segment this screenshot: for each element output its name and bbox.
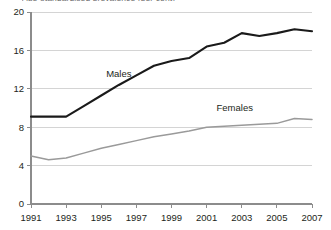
x-tick-labels-group: 199119931995199719992001200320052007	[20, 212, 322, 223]
x-tick-label-1995: 1995	[91, 212, 112, 223]
line-chart: Age-standardised prevalence (per cent) 0…	[0, 0, 331, 230]
x-tick-marks-group	[31, 204, 312, 208]
y-tick-label-8: 8	[19, 122, 24, 133]
x-tick-label-2005: 2005	[266, 212, 287, 223]
x-tick-label-1991: 1991	[20, 212, 41, 223]
y-tick-label-16: 16	[13, 45, 24, 56]
axis-group	[31, 12, 312, 204]
y-tick-label-12: 12	[13, 83, 24, 94]
y-tick-label-20: 20	[13, 6, 24, 17]
series-label-females: Females	[217, 102, 254, 113]
x-tick-label-2003: 2003	[231, 212, 252, 223]
x-tick-label-2007: 2007	[301, 212, 322, 223]
x-tick-label-2001: 2001	[196, 212, 217, 223]
x-tick-label-1999: 1999	[161, 212, 182, 223]
series-line-males	[31, 29, 312, 116]
chart-plot-area: 048121620 199119931995199719992001200320…	[0, 0, 331, 230]
x-tick-label-1997: 1997	[126, 212, 147, 223]
series-lines-group	[31, 29, 312, 160]
x-tick-label-1993: 1993	[56, 212, 77, 223]
series-labels-group: MalesFemales	[106, 68, 253, 113]
y-tick-labels-group: 048121620	[13, 6, 31, 209]
y-tick-label-0: 0	[19, 198, 24, 209]
series-line-females	[31, 119, 312, 160]
series-label-males: Males	[106, 68, 132, 79]
y-tick-label-4: 4	[19, 160, 24, 171]
